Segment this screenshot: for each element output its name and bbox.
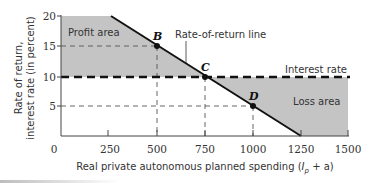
y-tick-label: 15 bbox=[43, 40, 56, 52]
rate-of-return-line-label: Rate-of-return line bbox=[175, 29, 266, 40]
profit-area-shade bbox=[61, 16, 206, 77]
page-edge-shadow bbox=[0, 180, 120, 183]
loss-area-label: Loss area bbox=[293, 96, 340, 107]
point-d bbox=[250, 103, 256, 109]
y-axis-title: Rate of return, interest rate (in percen… bbox=[13, 16, 36, 140]
point-d-label: D bbox=[248, 90, 259, 103]
point-b-label: B bbox=[152, 30, 162, 43]
x-tick-label: 1000 bbox=[240, 143, 267, 155]
point-c bbox=[202, 74, 208, 80]
x-tick-label: 750 bbox=[195, 143, 215, 155]
x-axis-title: Real private autonomous planned spending… bbox=[76, 161, 334, 175]
svg-text:interest rate (in percent): interest rate (in percent) bbox=[25, 16, 36, 140]
point-b bbox=[154, 43, 160, 49]
y-tick-label: 5 bbox=[49, 100, 56, 112]
svg-text:Rate of return,: Rate of return, bbox=[13, 42, 24, 115]
x-tick-label: 1250 bbox=[288, 143, 315, 155]
x-tick-label: 250 bbox=[100, 143, 120, 155]
rate-of-return-chart: 20 15 10 5 0 250 500 750 1000 1250 1500 … bbox=[0, 0, 373, 184]
interest-rate-label: Interest rate bbox=[285, 64, 347, 75]
x-tick-label: 500 bbox=[147, 143, 167, 155]
y-tick-label: 10 bbox=[43, 71, 56, 83]
point-c-label: C bbox=[201, 61, 210, 74]
y-tick-label: 20 bbox=[43, 10, 56, 22]
x-tick-label: 0 bbox=[51, 143, 58, 155]
profit-area-label: Profit area bbox=[68, 27, 120, 38]
x-tick-label: 1500 bbox=[335, 143, 362, 155]
